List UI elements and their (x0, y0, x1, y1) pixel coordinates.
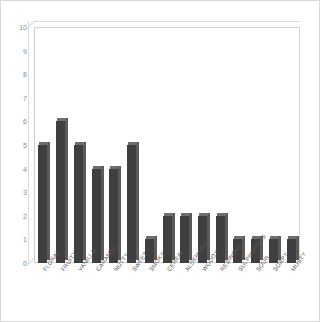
y-axis-tick-label: 5 (5, 142, 27, 149)
bar (251, 239, 260, 263)
y-axis-tick-label: 1 (5, 236, 27, 243)
bar-side-face (65, 118, 68, 260)
bar-side-face (101, 166, 104, 260)
bar-front-face (269, 239, 278, 263)
bar-side-face (172, 213, 175, 260)
bar-side-face (207, 213, 210, 260)
bar-side-face (225, 213, 228, 260)
bar (163, 216, 172, 263)
bar-front-face (127, 145, 136, 263)
bar-top-face (217, 213, 226, 216)
y-axis-tick-label: 2 (5, 212, 27, 219)
bar (145, 239, 154, 263)
bar-side-face (189, 213, 192, 260)
bar-chart: 012345678910 FLORALFRUITYVANILLACARAMELN… (0, 0, 320, 322)
bar (92, 169, 101, 263)
bar (74, 145, 83, 263)
y-axis: 012345678910 (1, 1, 27, 322)
bar-top-face (128, 142, 137, 145)
bar-top-face (75, 142, 84, 145)
bar-top-face (270, 236, 279, 239)
bar (56, 121, 65, 263)
y-axis-tick-label: 10 (5, 24, 27, 31)
bar-front-face (145, 239, 154, 263)
bar-front-face (74, 145, 83, 263)
bar (198, 216, 207, 263)
bar-top-face (57, 118, 66, 121)
bar-front-face (109, 169, 118, 263)
bar-front-face (180, 216, 189, 263)
y-axis-tick-label: 7 (5, 94, 27, 101)
bar (287, 239, 296, 263)
bar-top-face (146, 236, 155, 239)
bar-top-face (252, 236, 261, 239)
bar-front-face (163, 216, 172, 263)
bar-side-face (242, 236, 245, 260)
y-axis-tick-label: 9 (5, 47, 27, 54)
bar-front-face (56, 121, 65, 263)
bar-side-face (260, 236, 263, 260)
bar-side-face (154, 236, 157, 260)
bar (269, 239, 278, 263)
bar-side-face (83, 142, 86, 260)
bar-front-face (251, 239, 260, 263)
bar-top-face (39, 142, 48, 145)
bar-top-face (234, 236, 243, 239)
y-axis-tick-label: 0 (5, 260, 27, 267)
y-axis-tick-label: 4 (5, 165, 27, 172)
bar-top-face (164, 213, 173, 216)
bar-front-face (216, 216, 225, 263)
bar-top-face (199, 213, 208, 216)
bar-front-face (198, 216, 207, 263)
bar-series (34, 27, 300, 263)
bar-side-face (118, 166, 121, 260)
bar (38, 145, 47, 263)
bar (216, 216, 225, 263)
bar-front-face (92, 169, 101, 263)
bar-top-face (110, 166, 119, 169)
bar-top-face (93, 166, 102, 169)
bar-side-face (47, 142, 50, 260)
bar-side-face (136, 142, 139, 260)
bar (127, 145, 136, 263)
y-axis-tick-label: 8 (5, 71, 27, 78)
bar-top-face (181, 213, 190, 216)
y-axis-tick-label: 6 (5, 118, 27, 125)
bar-front-face (233, 239, 242, 263)
bar (180, 216, 189, 263)
bar-side-face (278, 236, 281, 260)
bar-front-face (38, 145, 47, 263)
bar (233, 239, 242, 263)
y-axis-tick-label: 3 (5, 189, 27, 196)
bar-front-face (287, 239, 296, 263)
bar (109, 169, 118, 263)
bar-top-face (288, 236, 297, 239)
bar-side-face (296, 236, 299, 260)
